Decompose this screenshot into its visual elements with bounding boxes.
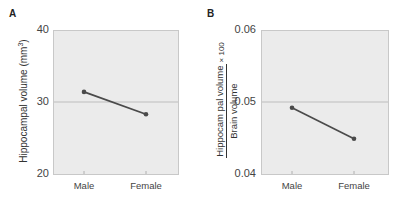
data-point: [82, 90, 87, 95]
series-line: [292, 108, 354, 139]
panel-b-series: [262, 102, 388, 174]
chart-overlay: [0, 0, 400, 200]
series-line: [84, 92, 146, 114]
data-point: [144, 112, 149, 117]
data-point: [290, 105, 295, 110]
panel-a-series: [54, 90, 178, 174]
data-point: [352, 136, 357, 141]
